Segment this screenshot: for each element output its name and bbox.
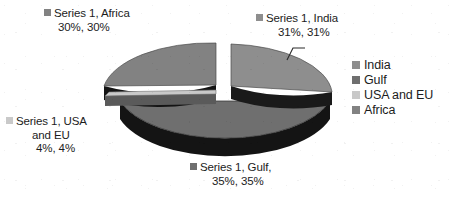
legend-label-usa-eu: USA and EU [364,88,433,102]
data-label-gulf: Series 1, Gulf, 35%, 35% [190,161,271,188]
data-label-usa-eu-line3: 4%, 4% [6,142,87,156]
data-label-gulf-line2: 35%, 35% [190,175,271,189]
legend-item-africa[interactable]: Africa [352,102,433,117]
legend-label-india: India [364,58,391,72]
legend-item-usa-eu[interactable]: USA and EU [352,87,433,102]
legend-swatch-africa [352,106,360,114]
legend-item-india[interactable]: India [352,57,433,72]
data-label-africa-line2: 30%, 30% [44,21,130,35]
pie-chart: Series 1, Africa 30%, 30% Series 1, Indi… [0,0,449,201]
data-label-india-line1: Series 1, India [266,12,338,24]
data-label-africa-swatch [44,9,51,16]
data-label-usa-eu-line1: Series 1, USA [16,115,87,127]
data-label-gulf-line1: Series 1, Gulf, [200,161,271,173]
data-label-usa-eu-line2: and EU [6,129,87,143]
data-label-africa-line1: Series 1, Africa [54,7,130,19]
data-label-usa-eu: Series 1, USA and EU 4%, 4% [6,115,87,156]
legend-swatch-gulf [352,76,360,84]
legend-label-gulf: Gulf [364,73,387,87]
legend-label-africa: Africa [364,103,395,117]
legend-swatch-usa-eu [352,91,360,99]
pie-slice-africa-top [104,43,216,86]
data-label-usa-eu-swatch [6,117,13,124]
data-label-india-line2: 31%, 31% [256,26,338,40]
legend-swatch-india [352,61,360,69]
data-label-india: Series 1, India 31%, 31% [256,12,338,39]
data-label-india-swatch [256,14,263,21]
data-label-gulf-swatch [190,163,197,170]
legend-item-gulf[interactable]: Gulf [352,72,433,87]
pie-slice-india-top [231,44,332,92]
legend: India Gulf USA and EU Africa [352,57,433,117]
data-label-africa: Series 1, Africa 30%, 30% [44,7,130,34]
